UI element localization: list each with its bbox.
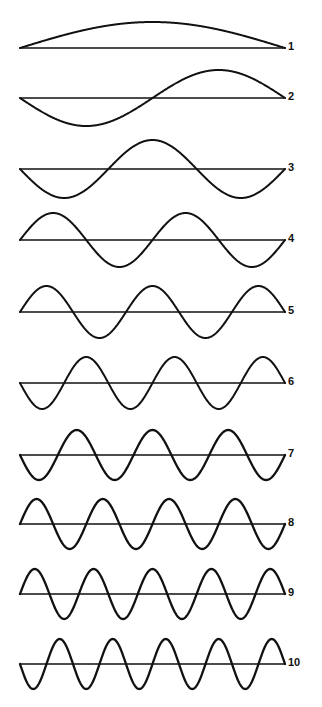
wave-row: [0, 134, 322, 204]
wave-label-4: 4: [288, 233, 294, 244]
wave-label-10: 10: [288, 657, 300, 668]
wave-plot-10: [0, 633, 322, 695]
wave-label-9: 9: [288, 587, 294, 598]
wave-label-6: 6: [288, 376, 294, 387]
wave-row: [0, 563, 322, 625]
wave-row: [0, 351, 322, 415]
wave-label-2: 2: [288, 91, 294, 102]
wave-curve: [20, 22, 285, 48]
wave-row: [0, 64, 322, 132]
wave-plot-2: [0, 64, 322, 132]
wave-plot-4: [0, 207, 322, 273]
wave-row: [0, 633, 322, 695]
wave-label-3: 3: [288, 162, 294, 173]
wave-row: [0, 280, 322, 344]
harmonic-wave-figure: 12345678910: [0, 0, 322, 707]
wave-label-5: 5: [288, 305, 294, 316]
wave-plot-5: [0, 280, 322, 344]
wave-plot-9: [0, 563, 322, 625]
wave-plot-6: [0, 351, 322, 415]
wave-row: [0, 493, 322, 555]
wave-label-7: 7: [288, 448, 294, 459]
wave-row: [0, 207, 322, 273]
wave-label-8: 8: [288, 517, 294, 528]
wave-row: [0, 424, 322, 486]
wave-plot-3: [0, 134, 322, 204]
wave-label-1: 1: [288, 41, 294, 52]
wave-plot-7: [0, 424, 322, 486]
wave-plot-8: [0, 493, 322, 555]
